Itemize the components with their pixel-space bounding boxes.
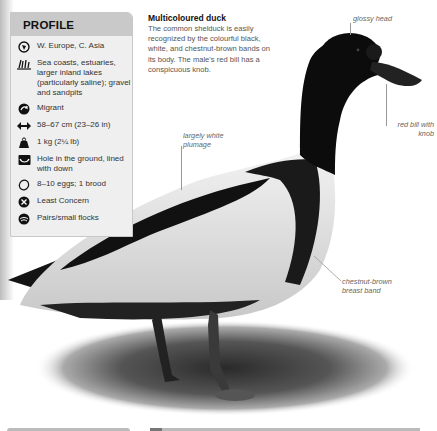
ground-shadow [35, 320, 415, 416]
profile-item-eggs: 8–10 eggs; 1 brood [11, 179, 132, 191]
reeds-habitat-icon [17, 58, 31, 70]
callout-white-plumage: largely white plumage [183, 131, 243, 149]
conservation-status-icon [17, 196, 31, 208]
profile-item-range: W. Europe, C. Asia [11, 41, 132, 53]
leader-line-white-plumage [181, 146, 182, 190]
callout-glossy-head: glossy head [353, 14, 392, 23]
profile-list: W. Europe, C. Asia Sea coasts, estuaries… [11, 36, 132, 225]
profile-panel: PROFILE W. Europe, C. Asia Sea coasts, e… [10, 12, 133, 237]
length-arrows-icon [17, 120, 31, 132]
globe-icon [17, 41, 31, 53]
callout-breast-band: chestnut-brown breast band [342, 277, 402, 295]
profile-item-habitat: Sea coasts, estuaries, larger inland lak… [11, 58, 132, 98]
intro-title: Multicoloured duck [148, 13, 276, 24]
callout-red-bill: red bill with knob [389, 120, 434, 138]
intro-body: The common shelduck is easily recognized… [148, 24, 276, 75]
social-flock-icon [17, 213, 31, 225]
profile-item-nest: Hole in the ground, lined with down [11, 154, 132, 174]
migration-arrow-icon [17, 103, 31, 115]
profile-item-weight: 1 kg (2¼ lb) [11, 137, 132, 149]
profile-item-length: 58–67 cm (23–26 in) [11, 120, 132, 132]
weight-icon [17, 137, 31, 149]
profile-item-conservation: Least Concern [11, 196, 132, 208]
profile-item-migration: Migrant [11, 103, 132, 115]
egg-icon [17, 179, 31, 191]
leader-line-breast-band [313, 255, 343, 285]
profile-item-social: Pairs/small flocks [11, 213, 132, 225]
leader-line-glossy-head [350, 23, 351, 35]
nest-icon [17, 154, 31, 166]
leader-line-red-bill [386, 84, 387, 126]
profile-title: PROFILE [11, 13, 132, 36]
intro-block: Multicoloured duck The common shelduck i… [148, 13, 276, 75]
